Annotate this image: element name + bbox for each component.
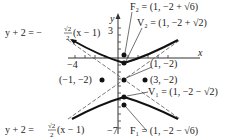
point-3-neg2-label: (3, −2): [150, 74, 177, 86]
focus-f2-point: [122, 53, 127, 58]
focus-f2-label: F₂ = (1, −2 + √6): [130, 1, 198, 13]
y-axis-label: y: [109, 13, 115, 24]
focus-f1-label: F₁ = (1, −2 − √6): [130, 125, 198, 137]
vertex-v2-point: [122, 61, 127, 66]
svg-text:2: 2: [50, 131, 54, 139]
point-neg1-neg2-label: (−1, −2): [59, 74, 92, 86]
hyperbola-lower-branch: [72, 97, 178, 119]
y-tick-3: 3: [108, 25, 113, 36]
svg-text:y + 2 = −: y + 2 = −: [5, 27, 42, 38]
leader-lines: [125, 12, 152, 131]
x-axis-label: x: [197, 47, 203, 58]
vertex-v2-label: V₂ = (1, −2 + √2): [137, 17, 207, 29]
x-tick-neg4: −4: [67, 59, 78, 70]
hyperbola-graph: F₂ = (1, −2 + √6) V₂ = (1, −2 + √2) x y …: [0, 0, 228, 140]
vertex-v1-label: V₁ = (1, −2 − √2): [148, 86, 218, 98]
y-axis-arrow-icon: [116, 13, 121, 19]
center-point: [122, 78, 127, 83]
svg-text:√2: √2: [48, 122, 56, 130]
point-neg1-neg2: [100, 78, 105, 83]
vertex-v1-point: [122, 95, 127, 100]
svg-text:√2: √2: [64, 25, 72, 33]
center-label: (1, −2): [150, 58, 177, 70]
y-tick-neg7: −7: [107, 125, 118, 136]
svg-text:(x − 1): (x − 1): [57, 124, 84, 136]
asymptote-positive-equation: y + 2 = √2 2 (x − 1): [5, 122, 84, 139]
svg-text:(x − 1): (x − 1): [73, 27, 100, 39]
svg-text:2: 2: [66, 34, 70, 42]
svg-text:y + 2 =: y + 2 =: [5, 124, 34, 135]
focus-f1-point: [122, 103, 127, 108]
asymptote-negative-equation: y + 2 = − √2 2 (x − 1): [5, 25, 100, 42]
point-3-neg2: [143, 78, 148, 83]
